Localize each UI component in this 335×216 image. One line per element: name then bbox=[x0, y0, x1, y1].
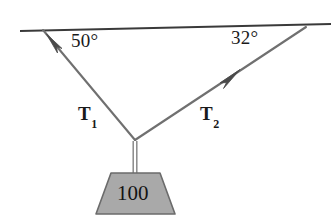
tension-t1-subscript: 1 bbox=[91, 117, 97, 131]
tension-label-t1: T1 bbox=[78, 104, 97, 127]
tension-t2-subscript: 2 bbox=[213, 117, 219, 131]
rope-t2-arrowhead bbox=[220, 70, 240, 89]
tension-t1-symbol: T bbox=[78, 103, 91, 124]
angle-label-right: 32° bbox=[231, 28, 258, 47]
weight-value-label: 100 bbox=[117, 183, 149, 204]
tension-diagram-figure: 50° 32° T1 T2 100 bbox=[0, 0, 335, 216]
ceiling-line bbox=[20, 24, 331, 31]
diagram-canvas bbox=[0, 0, 335, 216]
angle-label-left: 50° bbox=[71, 31, 98, 50]
tension-t2-symbol: T bbox=[200, 103, 213, 124]
tension-label-t2: T2 bbox=[200, 104, 219, 127]
rope-t2-line bbox=[135, 27, 306, 140]
